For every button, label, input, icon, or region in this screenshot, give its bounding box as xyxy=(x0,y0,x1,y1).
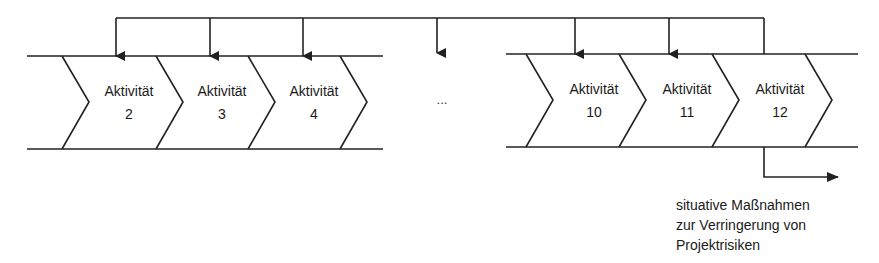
chevron-activity-10 xyxy=(619,54,646,147)
activity-label: Aktivität xyxy=(104,83,153,99)
chevron-activity-2 xyxy=(156,56,183,149)
chevron-notch xyxy=(62,56,89,149)
chevron-activity-12 xyxy=(805,54,832,147)
activity-number: 12 xyxy=(772,104,788,120)
output-note-line: Projektrisiken xyxy=(676,235,810,255)
activity-number: 10 xyxy=(586,104,602,120)
chevron-notch xyxy=(526,54,553,147)
activity-number: 11 xyxy=(680,104,695,120)
chevron-activity-11 xyxy=(712,54,739,147)
output-note-line: situative Maßnahmen xyxy=(676,195,810,215)
activity-number: 3 xyxy=(218,106,226,122)
activity-label: Aktivität xyxy=(569,81,618,97)
activity-number: 2 xyxy=(125,106,133,122)
output-note-line: zur Verringerung von xyxy=(676,215,810,235)
activity-label: Aktivität xyxy=(289,83,338,99)
activity-label: Aktivität xyxy=(662,81,711,97)
output-note: situative Maßnahmen zur Verringerung von… xyxy=(676,195,810,255)
ellipsis-gap: ... xyxy=(437,92,448,107)
activity-label: Aktivität xyxy=(197,83,246,99)
output-arrow-icon xyxy=(764,147,838,177)
activity-number: 4 xyxy=(310,106,318,122)
chevron-activity-3 xyxy=(248,56,275,149)
activity-label: Aktivität xyxy=(755,81,804,97)
chevron-activity-4 xyxy=(340,56,367,149)
